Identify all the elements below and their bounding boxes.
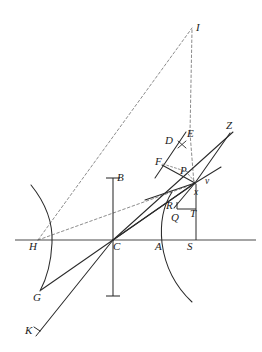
point-label-F: F [155, 156, 162, 167]
arrowhead-K [34, 327, 40, 336]
point-label-v: v [205, 177, 209, 187]
cross-mark-D [178, 141, 186, 148]
point-label-K: K [25, 325, 32, 336]
point-label-S: S [187, 241, 193, 252]
point-label-P: P [180, 165, 187, 176]
point-label-x: x [194, 188, 198, 198]
point-label-A: A [155, 241, 162, 252]
point-label-I: I [196, 22, 200, 33]
point-label-D: D [165, 135, 173, 146]
point-label-T: T [190, 208, 196, 219]
segment-F-to-vertex [162, 165, 195, 183]
point-label-Q: Q [171, 212, 179, 223]
ray-C-to-vertex [113, 183, 195, 240]
point-label-Z: Z [226, 120, 232, 131]
ray-C-to-Z [113, 132, 233, 240]
point-label-B: B [117, 172, 124, 183]
point-label-C: C [113, 241, 120, 252]
point-label-E: E [187, 128, 194, 139]
dashed-line-E-to-vertex [190, 133, 194, 184]
point-label-G: G [33, 292, 41, 303]
left-mirror-arc [31, 185, 52, 291]
geometry-figure: I Z E D F P v x B R Q T H C A S G K [0, 0, 262, 352]
point-label-R: R [166, 200, 173, 211]
ray-vertex-to-Zb [195, 133, 230, 183]
dashed-line-I-to-E [190, 30, 192, 133]
point-label-H: H [29, 241, 37, 252]
solid-ray-bundle [40, 132, 233, 331]
